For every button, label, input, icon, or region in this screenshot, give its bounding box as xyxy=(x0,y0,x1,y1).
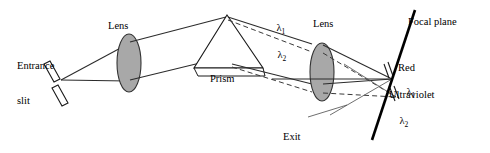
ultraviolet-label: Ultraviolet xyxy=(389,89,435,101)
entrance-slit-label-line1: Entrance xyxy=(17,60,54,72)
lambda2-focal-label: λ2 xyxy=(389,103,408,142)
exit-slit-label-line1: Exit xyxy=(283,131,301,143)
red-label: Red xyxy=(398,62,415,74)
prism-icon xyxy=(194,15,265,76)
exit-slit-label: Exit slit xyxy=(283,108,301,153)
lambda2-focal-subscript: 2 xyxy=(405,120,409,129)
lens-right-label: Lens xyxy=(313,18,333,30)
prism-label: Prism xyxy=(210,73,235,85)
lambda2-prism-label: λ2 xyxy=(267,37,286,76)
optical-diagram: Entrance slit Lens Prism λ1 λ2 Lens Foca… xyxy=(0,0,490,153)
lens-left-label: Lens xyxy=(108,20,128,32)
entrance-slit-label-line2: slit xyxy=(17,95,54,107)
lambda1-prism-subscript: 1 xyxy=(282,27,286,36)
lambda2-prism-subscript: 2 xyxy=(283,54,287,63)
lens-left-icon xyxy=(117,34,141,92)
exit-slit-leader-line xyxy=(308,105,347,117)
entrance-slit-label: Entrance slit xyxy=(17,37,54,129)
lens-right-icon xyxy=(310,43,334,101)
focal-plane-label: Focal plane xyxy=(408,16,457,28)
